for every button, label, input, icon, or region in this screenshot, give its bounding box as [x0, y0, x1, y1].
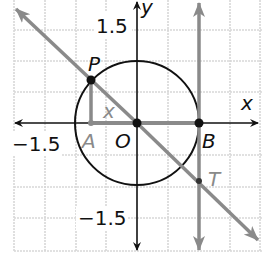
point-A: [88, 120, 94, 126]
label-O: O: [115, 129, 131, 153]
tick-label-y-pos: 1.5: [96, 14, 128, 38]
diagram-svg: 1.5 y x −1.5 −1.5 P A O B T x: [0, 0, 262, 260]
unit-circle-diagram: 1.5 y x −1.5 −1.5 P A O B T x: [0, 0, 262, 260]
label-P: P: [88, 52, 101, 76]
point-P: [87, 76, 96, 85]
x-axis-label: x: [240, 91, 253, 115]
point-O: [133, 119, 142, 128]
angle-label-x: x: [102, 99, 115, 123]
point-T: [196, 178, 202, 184]
tick-label-x-neg: −1.5: [12, 132, 61, 156]
y-axis-label: y: [140, 0, 154, 19]
point-B: [195, 119, 204, 128]
label-B: B: [202, 129, 216, 153]
tick-label-y-neg: −1.5: [78, 206, 127, 230]
label-A: A: [80, 129, 96, 153]
label-T: T: [208, 167, 222, 191]
